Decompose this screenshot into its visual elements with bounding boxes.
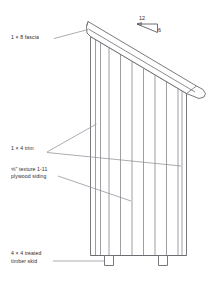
- label-skid-line2: timber skid: [11, 258, 37, 265]
- label-siding-line1: ⅝" texture 1-11: [11, 166, 47, 173]
- label-fascia: 1 × 8 fascia: [11, 34, 39, 41]
- label-skid-line1: 4 × 4 treated: [11, 250, 42, 257]
- building-wall: [91, 37, 187, 256]
- shed-elevation-drawing: 1 × 8 fascia 1 × 4 trim ⅝" texture 1-11 …: [0, 0, 219, 287]
- drawing-canvas: [0, 0, 219, 287]
- timber-skid-left: [105, 256, 114, 266]
- pitch-rise-label: 6: [158, 27, 161, 33]
- roof-pitch-triangle: [137, 23, 158, 33]
- timber-skid-right: [159, 256, 168, 266]
- label-siding-line2: plywood siding: [11, 173, 46, 180]
- label-trim: 1 × 4 trim: [11, 145, 34, 152]
- pitch-run-label: 12: [139, 15, 145, 21]
